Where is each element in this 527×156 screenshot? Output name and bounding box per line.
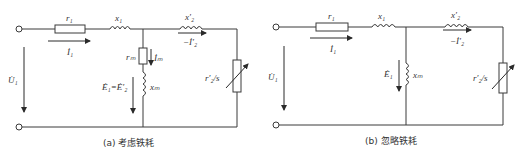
label-U1-a: U̇₁: [8, 75, 18, 85]
label-x2p-a: x′₂: [184, 12, 194, 22]
resistor-rm-a: [139, 48, 147, 64]
label-r1-b: r₁: [328, 11, 335, 21]
label-x2p-b: x′₂: [450, 10, 460, 20]
caption-b: (b) 忽略铁耗: [365, 135, 417, 146]
inductor-x2p-b: [445, 25, 468, 28]
label-minus-I2p-b: −İ′₂: [450, 36, 464, 46]
resistor-r1-a: [55, 25, 85, 33]
label-I1-b: İ₁: [329, 44, 336, 54]
label-E1-b: Ė₁: [383, 69, 393, 79]
inductor-xm-b: [406, 63, 409, 85]
label-rm-a: rₘ: [126, 52, 136, 62]
inductor-x1-b: [372, 25, 395, 28]
panel-b-circuit: r₁ x₁ x′₂ İ₁ −İ′₂ U̇₁ Ė₁ xₘ r′₂/s (b) 忽略…: [268, 10, 514, 146]
panel-a-circuit: r₁ x₁ x′₂ İ₁ −İ′₂ U̇₁ rₘ İₘ xₘ Ė₁=Ė′₂ r′…: [8, 12, 248, 148]
terminal-bottom-a: [16, 124, 22, 130]
terminal-top-a: [16, 26, 22, 32]
label-r1-a: r₁: [66, 13, 73, 23]
terminal-top-b: [273, 24, 279, 30]
terminal-bottom-b: [273, 122, 279, 128]
label-minus-I2p-a: −İ′₂: [183, 37, 197, 47]
label-E1-a: Ė₁=Ė′₂: [101, 82, 127, 92]
label-r2s-a: r′₂/s: [205, 73, 220, 83]
resistor-r1-b: [316, 23, 348, 31]
label-r2s-b: r′₂/s: [473, 73, 488, 83]
label-x1-a: x₁: [114, 13, 122, 23]
label-I1-a: İ₁: [66, 47, 73, 57]
inductor-x2p-a: [180, 27, 202, 30]
variable-resistor-r2s-b: [499, 63, 507, 93]
inductor-x1-a: [110, 27, 130, 30]
label-Im-a: İₘ: [153, 53, 163, 63]
label-x1-b: x₁: [377, 11, 385, 21]
label-xm-a: xₘ: [149, 82, 160, 92]
label-xm-b: xₘ: [412, 70, 423, 80]
label-U1-b: U̇₁: [268, 72, 278, 82]
caption-a: (a) 考虑铁耗: [103, 137, 154, 148]
inductor-xm-a: [143, 72, 146, 96]
